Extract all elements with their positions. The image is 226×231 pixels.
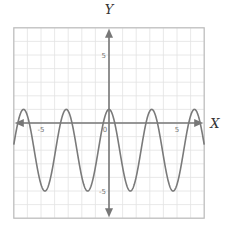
y-axis-title: Y bbox=[105, 2, 115, 17]
y-tick-label: -5 bbox=[99, 188, 106, 196]
y-axis-down-arrow-icon bbox=[105, 208, 113, 217]
x-tick-label: -5 bbox=[38, 126, 45, 134]
x-axis-title: X bbox=[209, 116, 220, 131]
function-graph: -5055-5 X Y bbox=[0, 0, 226, 231]
x-tick-label: 5 bbox=[175, 126, 179, 134]
y-axis-up-arrow-icon bbox=[105, 29, 113, 38]
x-tick-label: 0 bbox=[103, 126, 107, 134]
y-tick-label: 5 bbox=[102, 52, 106, 60]
